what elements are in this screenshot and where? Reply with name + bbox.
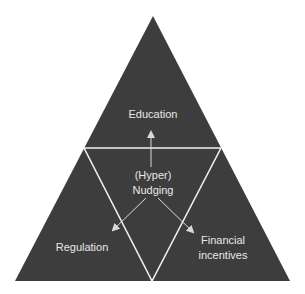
label-financial-incentives: Financial incentives bbox=[199, 233, 248, 263]
label-regulation: Regulation bbox=[56, 240, 109, 255]
education-text: Education bbox=[129, 108, 178, 120]
center-line2: Nudging bbox=[133, 183, 174, 198]
financial-line1: Financial bbox=[199, 233, 248, 248]
financial-line2: incentives bbox=[199, 248, 248, 263]
center-line1: (Hyper) bbox=[133, 168, 174, 183]
label-education: Education bbox=[129, 107, 178, 122]
regulation-text: Regulation bbox=[56, 241, 109, 253]
label-center-nudging: (Hyper) Nudging bbox=[133, 168, 174, 198]
triangle-diagram bbox=[0, 0, 305, 294]
